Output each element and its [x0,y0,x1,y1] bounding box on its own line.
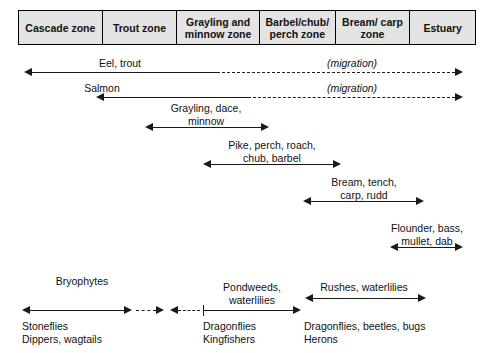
fauna-label-herons: Dragonflies, beetles, bugs Herons [304,320,494,345]
arrowhead-right-icon [333,160,341,168]
band-label-flounder: Flounder, bass, mullet, dab [357,222,494,247]
arrow-segment-solid [210,164,333,165]
band-label-grayling-dace: Grayling, dace, minnow [131,102,281,127]
band-arrow-bream-tench [0,201,494,203]
arrow-segment-solid [397,247,456,248]
arrow-segment-dashed [217,72,455,73]
arrowhead-right-icon [293,306,301,314]
arrowhead-right-icon [455,243,463,251]
arrowhead-right-icon [455,68,463,76]
band-note-salmon: (migration) [292,82,412,95]
fauna-label-stoneflies: Stoneflies Dippers, wagtails [22,320,202,345]
arrowhead-right-icon [124,306,132,314]
arrowhead-right-icon [418,294,426,302]
arrowhead-right-icon [261,123,269,131]
band-arrow-flounder [0,247,494,249]
zone-cell-grayling: Grayling and minnow zone [177,11,260,44]
band-arrow-grayling-dace [0,127,494,129]
arrow-segment-solid [29,310,124,311]
river-zonation-diagram: Cascade zone Trout zone Grayling and min… [0,0,494,353]
arrow-segment-solid [103,97,248,98]
band-label-eel-trout: Eel, trout [50,57,190,70]
arrowhead-right-icon [416,197,424,205]
arrow-segment-dashed [136,310,156,311]
band-note-eel-trout: (migration) [292,57,412,70]
arrow-segment-solid [310,201,417,202]
band-arrow-eel-trout [0,72,494,74]
plant-label-bryophytes: Bryophytes [12,275,152,288]
arrow-segment-solid [203,310,293,311]
zone-cell-barbel: Barbel/chub/ perch zone [260,11,336,44]
zone-cell-trout: Trout zone [103,11,178,44]
plant-label-rushes: Rushes, waterlilies [294,281,434,294]
zone-cell-estuary: Estuary [410,11,475,44]
arrowhead-left-icon [170,306,178,314]
plant-arrow-bryophytes [0,310,494,312]
band-arrow-pike-perch [0,164,494,166]
arrow-segment-solid [312,298,419,299]
plant-arrow-rushes [0,298,494,300]
zone-cell-bream: Bream/ carp zone [336,11,411,44]
arrow-segment-dashed [248,97,455,98]
zone-header-table: Cascade zone Trout zone Grayling and min… [18,10,476,45]
arrowhead-right-icon [156,306,164,314]
band-arrow-salmon [0,97,494,99]
arrowhead-right-icon [455,93,463,101]
arrow-segment-solid [152,127,261,128]
zone-cell-cascade: Cascade zone [19,11,103,44]
arrow-segment-solid [31,72,217,73]
arrow-segment-dashed [178,310,200,311]
